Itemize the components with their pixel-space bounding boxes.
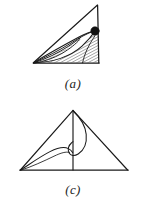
figure-panel-c: (c) xyxy=(0,100,146,207)
panel-c-ink xyxy=(20,110,128,170)
figure-sheet: (a) (c) xyxy=(0,0,146,207)
panel-c-caption: (c) xyxy=(0,182,146,198)
panel-a-drawing xyxy=(0,0,146,74)
panel-a-caption: (a) xyxy=(0,76,146,92)
triangle-left-edge xyxy=(20,110,73,170)
panel-a-ink xyxy=(30,5,104,68)
triangle-right-edge xyxy=(73,110,128,170)
figure-panel-a: (a) xyxy=(0,0,146,100)
teardrop-loop xyxy=(68,111,86,156)
filled-dot xyxy=(91,27,99,35)
panel-c-drawing xyxy=(0,100,146,178)
sweep-curve xyxy=(21,148,73,170)
